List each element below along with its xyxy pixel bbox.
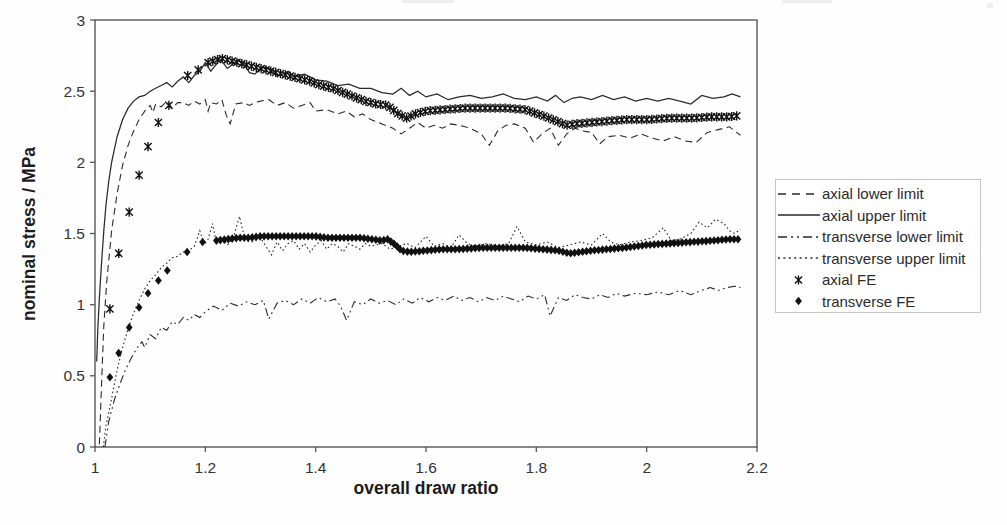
legend-sample-dotted-line [776, 250, 822, 266]
legend-item: axial lower limit [776, 183, 980, 205]
svg-text:2: 2 [76, 154, 85, 171]
legend-item: axial FE [776, 269, 980, 291]
x-axis-title: overall draw ratio [95, 478, 757, 499]
figure: 11.21.41.61.822.200.511.522.53 overall d… [0, 0, 1007, 525]
legend-sample-solid-line [776, 207, 822, 223]
legend: axial lower limitaxial upper limittransv… [775, 179, 981, 313]
y-axis-title: nominal stress / MPa [19, 134, 41, 334]
legend-item: transverse lower limit [776, 226, 980, 248]
svg-text:2: 2 [642, 459, 651, 476]
svg-text:3: 3 [76, 12, 85, 29]
legend-label: axial lower limit [822, 183, 924, 204]
svg-text:0: 0 [76, 439, 85, 456]
svg-text:1: 1 [76, 296, 85, 313]
svg-text:1: 1 [91, 459, 100, 476]
svg-text:0.5: 0.5 [63, 367, 85, 384]
svg-text:1.5: 1.5 [63, 225, 85, 242]
legend-item: axial upper limit [776, 205, 980, 227]
legend-sample-dashed-line [776, 186, 822, 202]
legend-label: axial upper limit [822, 205, 926, 226]
legend-sample-diamond-icon [776, 293, 822, 309]
svg-text:2.5: 2.5 [63, 83, 85, 100]
legend-sample-dashdot-line [776, 229, 822, 245]
legend-sample-star-icon [776, 272, 822, 288]
legend-item: transverse upper limit [776, 248, 980, 270]
legend-label: transverse FE [822, 291, 915, 312]
svg-text:1.4: 1.4 [305, 459, 327, 476]
svg-text:1.8: 1.8 [526, 459, 548, 476]
scan-artifact [782, 0, 832, 3]
svg-text:2.2: 2.2 [746, 459, 768, 476]
legend-label: axial FE [822, 269, 876, 290]
svg-text:1.6: 1.6 [415, 459, 437, 476]
svg-text:1.2: 1.2 [195, 459, 217, 476]
legend-label: transverse lower limit [822, 226, 963, 247]
legend-item: transverse FE [776, 291, 980, 313]
scan-artifact [987, 3, 993, 8]
scan-artifact [402, 0, 454, 3]
legend-label: transverse upper limit [822, 248, 965, 269]
